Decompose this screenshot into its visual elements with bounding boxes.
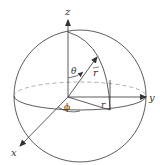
equator-front — [14, 96, 146, 110]
r-projection-label: r — [101, 100, 106, 110]
z-axis-label: z — [64, 6, 71, 17]
x-axis-label: x — [11, 147, 17, 158]
spherical-coordinates-diagram: z y x θ ϕ r r — [0, 0, 160, 165]
phi-label: ϕ — [64, 102, 70, 112]
r-vector-label: r — [93, 67, 99, 78]
y-axis-label: y — [148, 92, 155, 103]
sphere-outline — [14, 30, 146, 162]
equator-back-dashed — [14, 82, 146, 96]
theta-label: θ — [71, 66, 77, 76]
